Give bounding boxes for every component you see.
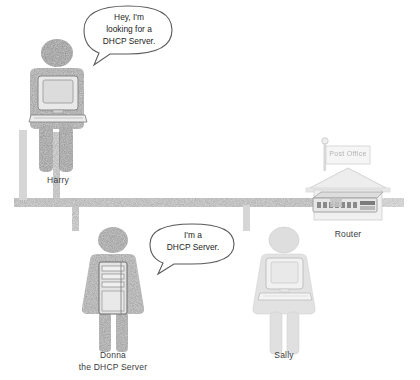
bubble-line-harry-2: looking for a xyxy=(106,24,152,34)
post-office-flag: Post Office xyxy=(322,138,370,171)
network-switch-device xyxy=(313,192,383,212)
bubble-line-donna-1: I'm a xyxy=(184,230,202,240)
router-building-roof xyxy=(306,168,390,192)
speech-bubble-donna: I'm a DHCP Server. xyxy=(150,224,234,274)
router-node[interactable]: Post Office xyxy=(306,138,404,239)
actor-label-harry: Harry xyxy=(47,175,69,185)
drop-line-harry xyxy=(53,132,60,200)
router-label: Router xyxy=(335,229,362,239)
network-diagram-canvas: Harry Hey, I'm looking for a DHCP Server… xyxy=(0,0,420,380)
bus-terminator-left xyxy=(19,130,27,200)
actor-sally[interactable]: Sally xyxy=(253,227,315,360)
server-tower-donna xyxy=(99,262,127,314)
speech-bubble-harry: Hey, I'm looking for a DHCP Server. xyxy=(84,6,172,65)
drop-line-sally xyxy=(243,205,250,231)
actor-label-donna: Donna xyxy=(100,350,126,360)
drop-line-donna xyxy=(72,205,79,231)
actor-donna[interactable]: Donna the DHCP Server xyxy=(79,227,148,372)
post-office-flag-label: Post Office xyxy=(329,150,366,157)
actor-label-sally: Sally xyxy=(274,350,294,360)
actor-sublabel-donna: the DHCP Server xyxy=(79,362,148,372)
bubble-line-harry-1: Hey, I'm xyxy=(114,12,144,22)
desktop-computer-harry xyxy=(29,76,87,122)
network-bus xyxy=(14,198,330,207)
bubble-line-harry-3: DHCP Server. xyxy=(103,36,155,46)
bubble-line-donna-2: DHCP Server. xyxy=(167,242,219,252)
